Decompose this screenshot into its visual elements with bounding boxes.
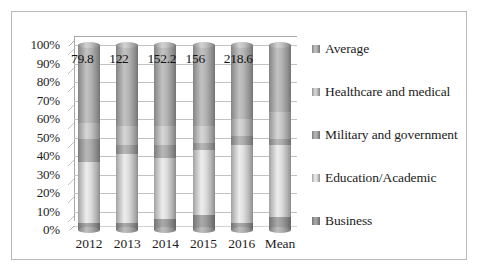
y-axis-tick-10pct: 10% (37, 205, 60, 218)
chart-legend: AverageHealthcare and medicalMilitary an… (312, 42, 472, 237)
bar-segment-2016-military-and-government[interactable] (231, 136, 253, 145)
bar-top-cap-2012 (78, 42, 100, 48)
gridline-depth-tick-10 (65, 212, 75, 222)
gridline-70 (74, 101, 297, 102)
x-axis-labels: 20122013201420152016Mean (65, 234, 305, 256)
gridline-10 (74, 212, 297, 213)
legend-item-label: Education/Academic (325, 171, 436, 185)
bar-segment-2015-healthcare-and-medical[interactable] (193, 126, 215, 143)
gridline-40 (74, 156, 297, 157)
bar-segment-2015-military-and-government[interactable] (193, 143, 215, 150)
bar-top-cap-2013 (116, 42, 138, 48)
data-label-2014: 152.2 (147, 51, 176, 67)
bar-bottom-cap-2012 (78, 227, 100, 233)
data-label-2015: 156 (186, 51, 205, 67)
gridline-80 (74, 82, 297, 83)
bar-segment-2013-education-academic[interactable] (116, 154, 138, 222)
data-label-2016: 218.6 (224, 51, 253, 67)
y-axis-tick-40pct: 40% (37, 149, 60, 162)
gridline-depth-tick-40 (65, 156, 75, 166)
bar-segment-2013-healthcare-and-medical[interactable] (116, 126, 138, 145)
legend-item-business[interactable]: Business (312, 214, 372, 228)
y-axis-tick-60pct: 60% (37, 112, 60, 125)
gridline-depth-tick-30 (65, 175, 75, 185)
gridline-60 (74, 119, 297, 120)
y-axis-labels: 0%10%20%30%40%50%60%70%80%90%100% (12, 36, 60, 230)
bar-top-cap-mean (269, 42, 291, 48)
bar-segment-2013-military-and-government[interactable] (116, 145, 138, 154)
legend-item-healthcare-and-medical[interactable]: Healthcare and medical (312, 85, 450, 99)
bar-top-cap-2016 (231, 42, 253, 48)
gridline-depth-tick-50 (65, 138, 75, 148)
bar-bottom-cap-2015 (193, 227, 215, 233)
bar-segment-2014-healthcare-and-medical[interactable] (154, 126, 176, 145)
data-label-2012: 79.8 (71, 51, 93, 67)
bar-segment-2012-healthcare-and-medical[interactable] (78, 123, 100, 140)
x-axis-tick-2015: 2015 (184, 236, 224, 252)
bar-segment-2014-military-and-government[interactable] (154, 145, 176, 158)
bar-segment-mean-education-academic[interactable] (269, 145, 291, 217)
legend-item-military-and-government[interactable]: Military and government (312, 128, 458, 142)
gridline-depth-tick-60 (65, 119, 75, 129)
y-axis-tick-50pct: 50% (37, 131, 60, 144)
bar-segment-2014-education-academic[interactable] (154, 158, 176, 219)
bar-segment-2015-education-academic[interactable] (193, 150, 215, 215)
x-axis-tick-mean: Mean (260, 236, 300, 252)
bar-bottom-cap-2013 (116, 227, 138, 233)
y-axis-tick-0pct: 0% (43, 223, 60, 236)
x-axis-tick-2012: 2012 (69, 236, 109, 252)
chart-frame: 0%10%20%30%40%50%60%70%80%90%100% 79.812… (11, 11, 467, 260)
gridline-depth-tick-20 (65, 193, 75, 203)
gridline-depth-tick-70 (65, 101, 75, 111)
legend-swatch-icon (312, 174, 320, 182)
gridline-30 (74, 175, 297, 176)
y-axis-tick-80pct: 80% (37, 75, 60, 88)
legend-swatch-icon (312, 217, 320, 225)
data-label-2013: 122 (109, 51, 128, 67)
bar-segment-2012-military-and-government[interactable] (78, 139, 100, 161)
bar-segment-2016-healthcare-and-medical[interactable] (231, 119, 253, 136)
bar-top-cap-2015 (193, 42, 215, 48)
gridline-depth-tick-80 (65, 82, 75, 92)
y-axis-tick-30pct: 30% (37, 168, 60, 181)
y-axis-tick-90pct: 90% (37, 57, 60, 70)
bar-bottom-cap-2014 (154, 227, 176, 233)
chart-screenshot: 0%10%20%30%40%50%60%70%80%90%100% 79.812… (0, 0, 485, 279)
legend-item-label: Healthcare and medical (325, 85, 450, 99)
legend-item-label: Average (325, 42, 369, 56)
y-axis-tick-70pct: 70% (37, 94, 60, 107)
bar-segment-mean-healthcare-and-medical[interactable] (269, 112, 291, 140)
gridline-100 (74, 45, 297, 46)
legend-swatch-icon (312, 88, 320, 96)
bar-segment-mean-average[interactable] (269, 45, 291, 112)
legend-item-education-academic[interactable]: Education/Academic (312, 171, 436, 185)
legend-swatch-icon (312, 131, 320, 139)
legend-item-label: Military and government (325, 128, 458, 142)
x-axis-tick-2016: 2016 (222, 236, 262, 252)
bar-segment-mean-military-and-government[interactable] (269, 139, 291, 145)
gridline-50 (74, 138, 297, 139)
bar-column-mean[interactable] (269, 36, 291, 230)
y-axis-tick-100pct: 100% (30, 38, 60, 51)
plot-area: 79.8122152.2156218.6 (65, 36, 297, 230)
y-axis-tick-20pct: 20% (37, 186, 60, 199)
x-axis-tick-2014: 2014 (145, 236, 185, 252)
bar-bottom-cap-mean (269, 227, 291, 233)
bar-segment-2016-education-academic[interactable] (231, 145, 253, 223)
legend-swatch-icon (312, 45, 320, 53)
legend-item-label: Business (325, 214, 372, 228)
bar-segment-2012-education-academic[interactable] (78, 162, 100, 223)
gridline-20 (74, 193, 297, 194)
legend-item-average[interactable]: Average (312, 42, 369, 56)
bar-bottom-cap-2016 (231, 227, 253, 233)
x-axis-tick-2013: 2013 (107, 236, 147, 252)
